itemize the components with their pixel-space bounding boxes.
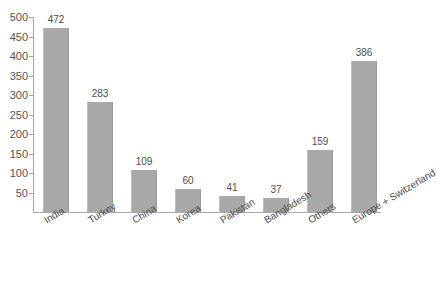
y-axis-tick-mark bbox=[29, 37, 34, 38]
y-axis-tick-label: 450 bbox=[10, 31, 28, 42]
cropped-title-remnant bbox=[150, 0, 240, 1]
bar[interactable]: 283 bbox=[87, 102, 113, 212]
y-axis-tick-label: 100 bbox=[10, 168, 28, 179]
y-axis-tick-mark bbox=[29, 17, 34, 18]
y-axis-tick-label: 250 bbox=[10, 109, 28, 120]
bar-value-label: 109 bbox=[136, 157, 153, 167]
y-axis-tick-label: 400 bbox=[10, 51, 28, 62]
y-axis-tick-mark bbox=[29, 173, 34, 174]
y-axis-tick-mark bbox=[29, 154, 34, 155]
y-axis-tick-label: 150 bbox=[10, 148, 28, 159]
bar-value-label: 472 bbox=[48, 15, 65, 25]
y-axis-tick-mark bbox=[29, 115, 34, 116]
plot-area: 50100150200250300350400450500 4722831096… bbox=[34, 17, 386, 212]
y-axis-tick-mark bbox=[29, 134, 34, 135]
bar-value-label: 41 bbox=[226, 183, 237, 193]
y-axis-tick-mark bbox=[29, 193, 34, 194]
bar[interactable]: 386 bbox=[351, 61, 377, 212]
bar-value-label: 283 bbox=[92, 89, 109, 99]
y-axis-tick-label: 500 bbox=[10, 12, 28, 23]
bar-value-label: 386 bbox=[356, 48, 373, 58]
y-axis-tick-mark bbox=[29, 95, 34, 96]
bar-value-label: 60 bbox=[182, 176, 193, 186]
bar-value-label: 159 bbox=[312, 137, 329, 147]
y-axis-tick-label: 350 bbox=[10, 70, 28, 81]
y-axis-tick-label: 50 bbox=[16, 187, 28, 198]
bar-value-label: 37 bbox=[270, 185, 281, 195]
y-axis-tick-mark bbox=[29, 76, 34, 77]
bar[interactable]: 472 bbox=[43, 28, 69, 212]
y-axis-tick-label: 300 bbox=[10, 90, 28, 101]
y-axis-tick-mark bbox=[29, 56, 34, 57]
y-axis-tick-label: 200 bbox=[10, 129, 28, 140]
